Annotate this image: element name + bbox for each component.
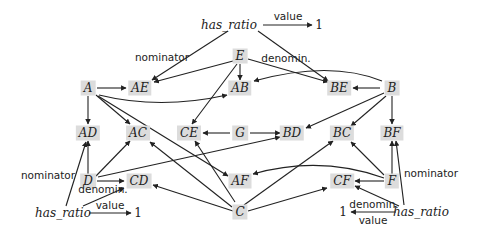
value-label-left: value	[96, 199, 125, 211]
value-label-right: value	[359, 214, 388, 226]
value-one-right: 1	[339, 205, 347, 219]
denominator-label-right: denomin.	[349, 198, 398, 210]
ratio-graph-diagram: has_ratio value 1 nominator denomin. A A…	[0, 0, 479, 235]
node-BE: BE	[327, 81, 351, 96]
denominator-label-top: denomin.	[261, 52, 310, 64]
nominator-label-left: nominator	[21, 169, 75, 181]
node-C: C	[232, 205, 247, 220]
node-AF: AF	[229, 174, 252, 189]
value-one-top: 1	[315, 18, 323, 32]
has-ratio-left: has_ratio	[35, 206, 91, 220]
node-BD: BD	[280, 126, 304, 141]
node-G: G	[232, 126, 248, 141]
node-AC: AC	[126, 126, 150, 141]
nominator-label-top: nominator	[135, 51, 189, 63]
node-AB: AB	[228, 81, 251, 96]
edges-layer	[0, 0, 479, 235]
node-BC: BC	[330, 126, 354, 141]
node-CD: CD	[127, 174, 152, 189]
node-CE: CE	[177, 126, 201, 141]
node-AE: AE	[128, 81, 151, 96]
node-CF: CF	[330, 174, 354, 189]
node-A: A	[81, 81, 96, 96]
node-BF: BF	[380, 126, 403, 141]
nominator-label-right: nominator	[404, 167, 458, 179]
value-one-left: 1	[134, 206, 142, 220]
value-label-top: value	[274, 10, 303, 22]
node-F: F	[385, 174, 399, 189]
denominator-label-left: denomin.	[78, 183, 127, 195]
node-E: E	[233, 49, 248, 64]
has-ratio-top: has_ratio	[201, 18, 257, 32]
node-AD: AD	[76, 126, 100, 141]
node-B: B	[385, 81, 400, 96]
has-ratio-right: has_ratio	[393, 205, 449, 219]
